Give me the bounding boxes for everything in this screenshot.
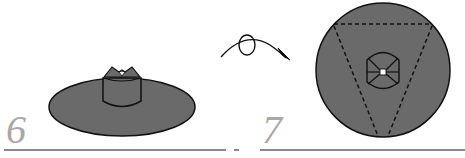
step-7-divider xyxy=(260,149,465,151)
step-6-figure xyxy=(49,67,195,136)
diagram-drawing xyxy=(0,0,465,158)
step-number-7: 7 xyxy=(262,110,282,150)
step-6-divider xyxy=(4,149,226,151)
divider-fragment xyxy=(234,149,239,151)
step-7-figure xyxy=(316,3,450,137)
origami-diagram: 6 7 xyxy=(0,0,465,158)
step-number-6: 6 xyxy=(6,110,26,150)
cylinder-body xyxy=(103,78,141,107)
turn-over-arrow-icon xyxy=(221,35,290,60)
